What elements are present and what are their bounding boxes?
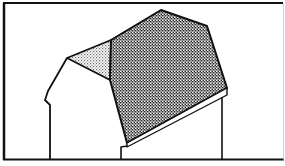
gable-end [67,40,111,80]
notch-wall [121,146,127,160]
left-wall [45,58,67,160]
house-roof-drawing [0,0,285,166]
